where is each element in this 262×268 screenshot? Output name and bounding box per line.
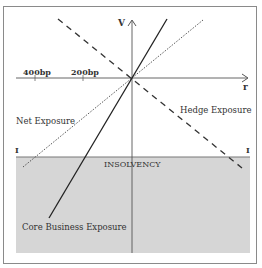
hedge-exposure-line	[58, 19, 242, 168]
hedge-exposure-label: Hedge Exposure	[180, 105, 252, 115]
insolvency-marker-left: I	[15, 145, 19, 155]
insolvency-region	[16, 157, 250, 253]
insolvency-label: INSOLVENCY	[104, 160, 161, 169]
tick-label-400bp: 400bp	[23, 67, 51, 77]
core-business-exposure-label: Core Business Exposure	[22, 222, 127, 232]
insolvency-marker-right: I	[246, 145, 250, 155]
net-exposure-label: Net Exposure	[16, 116, 75, 126]
exposure-diagram: V r 400bp 200bp Net Exposure Hedge Expos…	[0, 0, 262, 268]
net-exposure-line	[23, 20, 203, 167]
r-axis-label: r	[243, 82, 248, 92]
v-axis-label: V	[117, 18, 126, 28]
tick-label-200bp: 200bp	[71, 67, 99, 77]
